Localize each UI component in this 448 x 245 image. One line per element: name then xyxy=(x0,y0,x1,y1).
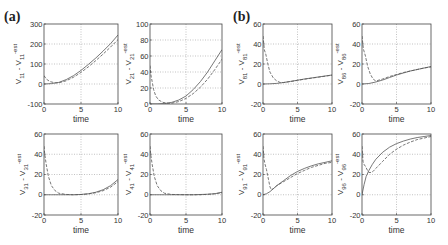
y-tick-label: 80 xyxy=(140,36,148,45)
y-tick-label: 60 xyxy=(352,130,360,139)
y-axis-label: V31 - V31-est xyxy=(16,154,29,196)
y-tick-label: 20 xyxy=(352,60,360,69)
y-tick-label: 0 xyxy=(38,190,42,199)
x-axis-label: time xyxy=(178,225,194,235)
y-tick-label: 40 xyxy=(253,40,261,49)
x-axis-label: time xyxy=(73,114,89,124)
y-tick-label: 20 xyxy=(253,170,261,179)
y-tick-label: 20 xyxy=(140,84,148,93)
series-dashed xyxy=(263,146,332,190)
y-tick-label: 0 xyxy=(257,80,261,89)
x-tick-label: 5 xyxy=(184,216,188,225)
y-tick-label: 100 xyxy=(136,20,149,29)
x-tick-label: 5 xyxy=(295,105,299,114)
x-tick-label: 5 xyxy=(394,216,398,225)
figure: (a) (b) 0510-1000100200300timeV11 - V11-… xyxy=(0,0,448,245)
y-tick-label: -20 xyxy=(350,211,361,220)
x-tick-label: 0 xyxy=(148,216,152,225)
x-axis-label: time xyxy=(388,114,404,124)
y-axis-label: V86 - V86-est xyxy=(334,43,347,85)
subplot-b-bottom-right: 0510-200204060timeV96 - V96-est xyxy=(334,130,435,236)
x-axis-label: time xyxy=(289,225,305,235)
x-tick-label: 5 xyxy=(79,105,83,114)
x-axis-label: time xyxy=(388,225,404,235)
x-tick-label: 0 xyxy=(360,105,364,114)
x-tick-label: 0 xyxy=(261,216,265,225)
y-tick-label: -20 xyxy=(32,211,43,220)
y-tick-label: 20 xyxy=(34,170,42,179)
y-tick-label: -20 xyxy=(138,211,149,220)
y-tick-label: 20 xyxy=(140,170,148,179)
x-axis-label: time xyxy=(289,114,305,124)
x-tick-label: 0 xyxy=(148,105,152,114)
subplot-a-top-right: 0510020406080100timeV21 - V21-est xyxy=(122,20,226,125)
x-tick-label: 5 xyxy=(394,105,398,114)
series-dashed xyxy=(44,40,118,83)
y-tick-label: 0 xyxy=(144,190,148,199)
y-tick-label: -20 xyxy=(251,211,262,220)
y-axis-label: V21 - V21-est xyxy=(122,43,135,85)
y-tick-label: 60 xyxy=(352,20,360,29)
y-tick-label: 0 xyxy=(144,100,148,109)
y-tick-label: 60 xyxy=(140,52,148,61)
y-tick-label: 200 xyxy=(30,40,43,49)
y-tick-label: 0 xyxy=(356,80,360,89)
y-tick-label: 60 xyxy=(253,130,261,139)
y-tick-label: 40 xyxy=(140,68,148,77)
y-tick-label: 60 xyxy=(140,130,148,139)
x-tick-label: 10 xyxy=(427,105,435,114)
y-tick-label: 300 xyxy=(30,20,43,29)
subplot-a-bottom-left: 0510-200204060timeV31 - V31-est xyxy=(16,130,122,236)
x-tick-label: 10 xyxy=(114,105,122,114)
y-tick-label: -100 xyxy=(27,100,42,109)
x-tick-label: 10 xyxy=(218,105,226,114)
y-axis-label: V41 - V41-est xyxy=(122,154,135,196)
y-tick-label: 0 xyxy=(38,80,42,89)
x-axis-label: time xyxy=(73,225,89,235)
subplot-a-bottom-right: 0510-200204060timeV41 - V41-est xyxy=(122,130,226,236)
y-axis-label: V96 - V96-est xyxy=(334,154,347,196)
y-tick-label: 40 xyxy=(253,150,261,159)
y-tick-label: 0 xyxy=(356,190,360,199)
subplot-a-top-left: 0510-1000100200300timeV11 - V11-est xyxy=(12,20,122,125)
y-tick-label: 60 xyxy=(253,20,261,29)
x-tick-label: 10 xyxy=(427,216,435,225)
x-tick-label: 0 xyxy=(261,105,265,114)
x-tick-label: 10 xyxy=(328,105,336,114)
x-tick-label: 0 xyxy=(42,105,46,114)
x-tick-label: 5 xyxy=(295,216,299,225)
x-tick-label: 5 xyxy=(79,216,83,225)
y-tick-label: 20 xyxy=(352,170,360,179)
y-tick-label: -20 xyxy=(350,100,361,109)
series-dashed xyxy=(362,36,431,81)
y-tick-label: 60 xyxy=(34,130,42,139)
y-tick-label: 40 xyxy=(34,150,42,159)
y-tick-label: -20 xyxy=(251,100,262,109)
x-tick-label: 5 xyxy=(184,105,188,114)
subplot-b-bottom-left: 0510-200204060timeV91 - V91-est xyxy=(235,130,336,236)
x-tick-label: 10 xyxy=(114,216,122,225)
y-tick-label: 40 xyxy=(352,150,360,159)
y-tick-label: 20 xyxy=(253,60,261,69)
subplot-b-top-left: 0510-200204060timeV81 - V81-est xyxy=(235,20,336,125)
y-tick-label: 100 xyxy=(30,60,43,69)
subplot-b-top-right: 0510-200204060timeV86 - V86-est xyxy=(334,20,435,125)
x-tick-label: 0 xyxy=(360,216,364,225)
y-tick-label: 40 xyxy=(140,150,148,159)
x-tick-label: 10 xyxy=(218,216,226,225)
y-axis-label: V81 - V81-est xyxy=(235,43,248,85)
y-axis-label: V91 - V91-est xyxy=(235,154,248,196)
x-tick-label: 0 xyxy=(42,216,46,225)
y-axis-label: V11 - V11-est xyxy=(12,44,25,85)
x-axis-label: time xyxy=(178,114,194,124)
y-tick-label: 40 xyxy=(352,40,360,49)
y-tick-label: 0 xyxy=(257,190,261,199)
x-tick-label: 10 xyxy=(328,216,336,225)
plots-canvas: 0510-1000100200300timeV11 - V11-est05100… xyxy=(0,0,448,245)
